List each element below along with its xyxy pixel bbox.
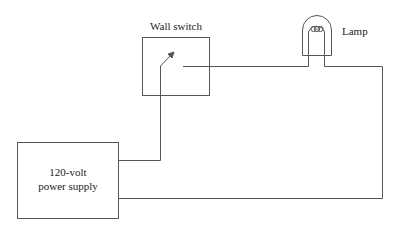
switch-lever-icon — [161, 52, 175, 66]
circuit-drawing — [0, 0, 394, 232]
circuit-diagram: Wall switch Lamp 120-volt power supply — [0, 0, 394, 232]
wire-switch-to-lamp — [183, 55, 309, 67]
lamp-label: Lamp — [342, 25, 368, 38]
power-supply-label-line1: 120-volt — [17, 166, 119, 179]
wall-switch-label: Wall switch — [150, 20, 202, 33]
power-supply-label-line2: power supply — [17, 180, 119, 193]
lamp-bulb-icon — [303, 15, 332, 55]
wire-lamp-to-supply — [118, 55, 383, 199]
wire-supply-to-switch — [118, 66, 161, 161]
